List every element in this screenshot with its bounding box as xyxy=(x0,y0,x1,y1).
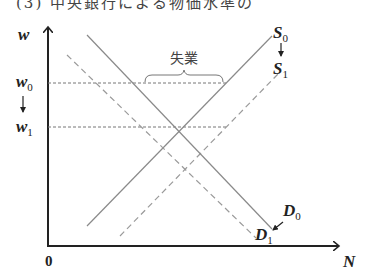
x-axis-label: N xyxy=(342,252,356,271)
w1-label: w1 xyxy=(16,117,33,138)
w0-label: w0 xyxy=(16,72,33,93)
origin-label: 0 xyxy=(45,253,53,269)
demand-shift-arrow-icon xyxy=(273,222,283,230)
supply-curve-s1 xyxy=(120,74,278,236)
y-axis-label: w xyxy=(18,25,30,44)
d1-label: D1 xyxy=(254,225,273,246)
s1-label: S1 xyxy=(273,59,288,80)
labor-market-diagram: 失業 w w0 w1 0 N S0 S1 D0 D1 xyxy=(0,0,365,280)
demand-curve-d1 xyxy=(67,55,256,238)
unemployment-label: 失業 xyxy=(170,50,198,66)
d0-label: D0 xyxy=(282,201,301,222)
s0-label: S0 xyxy=(273,23,288,44)
unemployment-brace xyxy=(145,70,223,82)
